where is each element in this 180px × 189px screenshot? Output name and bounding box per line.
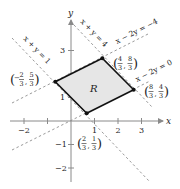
- y-axis-label: y: [67, 8, 74, 18]
- svg-text:,: ,: [88, 142, 90, 150]
- y-tick-3: 3: [60, 46, 65, 55]
- vertex-4-3-8-3: [100, 56, 104, 60]
- x-tick-3: 3: [139, 126, 144, 135]
- vertex-8-3-4-3: [132, 88, 136, 92]
- svg-text:): ): [164, 84, 169, 99]
- svg-text:1: 1: [92, 135, 96, 143]
- svg-text:3: 3: [30, 80, 34, 88]
- y-tick-1: 1: [60, 93, 65, 102]
- vertex-neg2-3-5-3: [53, 80, 57, 84]
- svg-text:,: ,: [155, 90, 157, 98]
- svg-text:3: 3: [128, 64, 132, 72]
- svg-text:8: 8: [149, 83, 153, 91]
- x-tick-1: 1: [92, 126, 97, 135]
- vertex-label-2-3-1-3: ( 2 3 , 1 3 ): [77, 135, 102, 152]
- svg-text:5: 5: [30, 71, 34, 79]
- svg-text:3: 3: [159, 92, 163, 100]
- x-tick-2: 2: [116, 126, 121, 135]
- svg-text:): ): [133, 56, 138, 71]
- label-x-minus-2y-eq-0: x − 2y = 0: [134, 57, 174, 83]
- x-axis-label: x: [166, 116, 171, 126]
- svg-text:,: ,: [124, 62, 126, 70]
- svg-text:2: 2: [20, 71, 24, 79]
- svg-text:3: 3: [118, 64, 122, 72]
- label-x-plus-y-eq-4: x + y = 4: [79, 17, 110, 49]
- label-x-plus-y-eq-1: x + y = 1: [22, 34, 53, 66]
- svg-text:8: 8: [128, 55, 132, 63]
- svg-text:4: 4: [118, 55, 122, 63]
- svg-text:3: 3: [82, 144, 86, 152]
- y-tick-neg1: −1: [55, 140, 67, 149]
- region-r-label: R: [89, 83, 98, 94]
- svg-text:,: ,: [25, 78, 27, 86]
- svg-text:): ): [35, 72, 40, 87]
- vertex-label-4-3-8-3: ( 4 3 , 8 3 ): [113, 55, 138, 72]
- svg-text:2: 2: [82, 135, 86, 143]
- vertex-label-8-3-4-3: ( 8 3 , 4 3 ): [144, 83, 169, 100]
- y-tick-neg2: −2: [55, 164, 67, 173]
- vertex-2-3-1-3: [85, 111, 89, 115]
- svg-text:4: 4: [159, 83, 163, 91]
- svg-text:3: 3: [20, 80, 24, 88]
- svg-text:3: 3: [149, 92, 153, 100]
- svg-text:): ): [97, 136, 102, 151]
- feasible-region-figure: x y −2 1 2 3 3 1 −1 −2 R ( − 2 3 , 5: [0, 0, 180, 189]
- label-x-minus-2y-eq-neg4: x − 2y = −4: [114, 17, 160, 46]
- x-tick-neg2: −2: [18, 126, 30, 135]
- vertex-label-neg2-3-5-3: ( − 2 3 , 5 3 ): [10, 71, 40, 88]
- svg-text:3: 3: [92, 144, 96, 152]
